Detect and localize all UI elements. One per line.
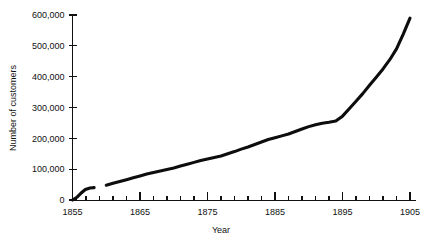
x-axis-title: Year <box>212 225 230 235</box>
x-tick-label: 1885 <box>265 207 285 217</box>
y-tick-label: 400,000 <box>32 72 65 82</box>
x-tick-label: 1895 <box>332 207 352 217</box>
chart-background <box>0 0 435 239</box>
x-tick-label: 1865 <box>130 207 150 217</box>
y-tick-label: 0 <box>59 195 64 205</box>
line-chart: 0100,000200,000300,000400,000500,000600,… <box>0 0 435 239</box>
x-tick-label: 1875 <box>197 207 217 217</box>
y-tick-label: 200,000 <box>32 134 65 144</box>
y-tick-label: 300,000 <box>32 103 65 113</box>
y-tick-label: 500,000 <box>32 41 65 51</box>
y-axis-title: Number of customers <box>8 64 18 151</box>
chart-figure: 0100,000200,000300,000400,000500,000600,… <box>0 0 435 239</box>
y-tick-label: 100,000 <box>32 164 65 174</box>
x-tick-label: 1855 <box>62 207 82 217</box>
x-tick-label: 1905 <box>400 207 420 217</box>
y-tick-label: 600,000 <box>32 10 65 20</box>
